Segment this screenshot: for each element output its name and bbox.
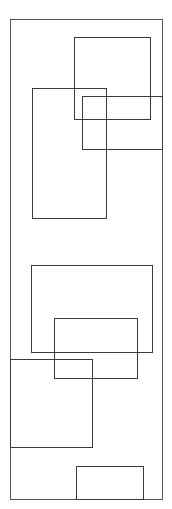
diagram-canvas — [0, 0, 172, 509]
rectangle-f — [10, 359, 93, 448]
rectangle-c — [82, 96, 163, 150]
rectangle-g — [76, 466, 144, 500]
